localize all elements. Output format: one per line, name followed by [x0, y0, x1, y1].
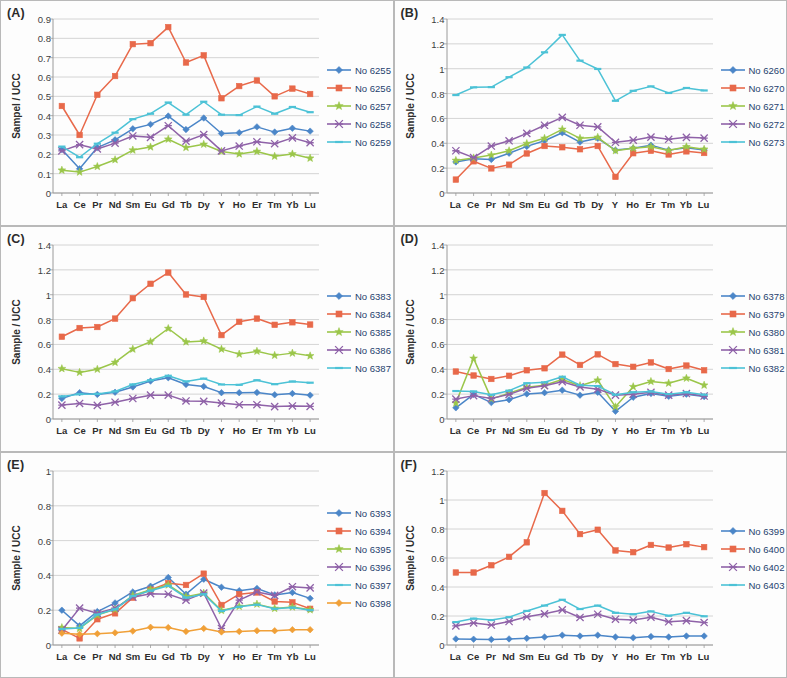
x-tick-label: Pr	[486, 199, 496, 210]
legend: No 6399No 6400No 6402No 6403	[721, 471, 785, 645]
x-tick-label: Yb	[680, 199, 692, 210]
legend-item[interactable]: No 6393	[327, 504, 391, 522]
legend-item[interactable]: No 6255	[327, 61, 391, 79]
x-tick-label: Tb	[180, 199, 192, 210]
x-tick-label: Lu	[304, 651, 316, 662]
legend-item[interactable]: No 6380	[721, 323, 785, 341]
panel-c: (C)Sample / UCC00.20.40.60.811.21.4LaCeP…	[0, 226, 394, 452]
legend-item[interactable]: No 6400	[721, 540, 785, 558]
legend-label: No 6381	[749, 345, 785, 356]
x-tick-label: Sm	[125, 651, 140, 662]
legend-swatch-icon	[327, 526, 351, 536]
x-tick-label: Yb	[286, 425, 298, 436]
legend-item[interactable]: No 6270	[721, 79, 785, 97]
x-tick-label: Eu	[144, 425, 156, 436]
x-tick-label: La	[450, 651, 461, 662]
legend-label: No 6402	[749, 562, 785, 573]
panel-d: (D)Sample / UCC00.20.40.60.811.21.4LaCeP…	[394, 226, 787, 452]
x-tick-label: Tb	[180, 651, 192, 662]
legend-item[interactable]: No 6381	[721, 341, 785, 359]
x-tick-label: Er	[645, 199, 655, 210]
x-tick-label: La	[450, 199, 461, 210]
x-tick-label: Y	[218, 651, 224, 662]
x-tick-label: Nd	[502, 199, 515, 210]
legend-swatch-icon	[327, 101, 351, 111]
legend-item[interactable]: No 6379	[721, 305, 785, 323]
x-tick-label: Tb	[574, 425, 586, 436]
legend-label: No 6399	[749, 526, 785, 537]
x-tick-label: Pr	[92, 425, 102, 436]
legend-label: No 6255	[355, 65, 391, 76]
legend-label: No 6394	[355, 526, 391, 537]
legend-item[interactable]: No 6378	[721, 287, 785, 305]
legend-item[interactable]: No 6396	[327, 558, 391, 576]
x-tick-label: Y	[612, 425, 618, 436]
x-tick-label: Sm	[519, 651, 534, 662]
legend-item[interactable]: No 6394	[327, 522, 391, 540]
x-tick-label: Ce	[74, 651, 86, 662]
legend-swatch-icon	[327, 562, 351, 572]
x-tick-label: Ho	[233, 199, 246, 210]
legend-swatch-icon	[327, 291, 351, 301]
legend-item[interactable]: No 6399	[721, 522, 785, 540]
legend: No 6383No 6384No 6385No 6386No 6387	[327, 245, 391, 419]
legend-label: No 6257	[355, 101, 391, 112]
legend-item[interactable]: No 6387	[327, 359, 391, 377]
legend-label: No 6271	[749, 101, 785, 112]
legend-swatch-icon	[327, 363, 351, 373]
legend-item[interactable]: No 6403	[721, 576, 785, 594]
x-tick-label: Yb	[680, 425, 692, 436]
legend-swatch-icon	[327, 137, 351, 147]
x-tick-label: Eu	[538, 199, 550, 210]
x-tick-label: Gd	[555, 425, 568, 436]
legend-swatch-icon	[721, 291, 745, 301]
x-tick-label: Y	[612, 199, 618, 210]
legend-item[interactable]: No 6257	[327, 97, 391, 115]
x-tick-label: Nd	[502, 651, 515, 662]
x-tick-label: Sm	[519, 199, 534, 210]
legend-label: No 6256	[355, 83, 391, 94]
legend-item[interactable]: No 6272	[721, 115, 785, 133]
x-tick-label: Yb	[680, 651, 692, 662]
x-tick-label: Nd	[502, 425, 515, 436]
legend-label: No 6403	[749, 580, 785, 591]
x-tick-label: Dy	[198, 425, 210, 436]
legend-item[interactable]: No 6260	[721, 61, 785, 79]
x-tick-label: Ce	[74, 425, 86, 436]
legend-item[interactable]: No 6384	[327, 305, 391, 323]
legend-label: No 6386	[355, 345, 391, 356]
legend: No 6260No 6270No 6271No 6272No 6273	[721, 19, 785, 193]
legend-swatch-icon	[721, 526, 745, 536]
x-tick-label: Sm	[125, 425, 140, 436]
legend-swatch-icon	[327, 544, 351, 554]
legend-item[interactable]: No 6256	[327, 79, 391, 97]
x-tick-label: Sm	[519, 425, 534, 436]
legend-swatch-icon	[327, 65, 351, 75]
legend-item[interactable]: No 6273	[721, 133, 785, 151]
legend: No 6393No 6394No 6395No 6396No 6397No 63…	[327, 471, 391, 645]
legend-label: No 6382	[749, 363, 785, 374]
legend-item[interactable]: No 6271	[721, 97, 785, 115]
legend: No 6255No 6256No 6257No 6258No 6259	[327, 19, 391, 193]
legend-item[interactable]: No 6397	[327, 576, 391, 594]
legend-item[interactable]: No 6259	[327, 133, 391, 151]
legend-item[interactable]: No 6382	[721, 359, 785, 377]
legend-item[interactable]: No 6386	[327, 341, 391, 359]
legend-item[interactable]: No 6398	[327, 594, 391, 612]
legend-item[interactable]: No 6383	[327, 287, 391, 305]
legend: No 6378No 6379No 6380No 6381No 6382	[721, 245, 785, 419]
panel-a: (A)Sampel / UCC00.10.20.30.40.50.60.70.8…	[0, 0, 394, 226]
legend-item[interactable]: No 6395	[327, 540, 391, 558]
legend-item[interactable]: No 6385	[327, 323, 391, 341]
legend-swatch-icon	[721, 544, 745, 554]
x-tick-label: La	[56, 651, 67, 662]
legend-swatch-icon	[327, 327, 351, 337]
x-tick-label: Pr	[92, 199, 102, 210]
legend-item[interactable]: No 6402	[721, 558, 785, 576]
legend-swatch-icon	[721, 309, 745, 319]
legend-swatch-icon	[327, 580, 351, 590]
legend-item[interactable]: No 6258	[327, 115, 391, 133]
x-tick-label: Dy	[591, 651, 603, 662]
legend-label: No 6398	[355, 598, 391, 609]
panel-e: (E)Sample / UCC00.20.40.60.81LaCePrNdSmE…	[0, 452, 394, 678]
